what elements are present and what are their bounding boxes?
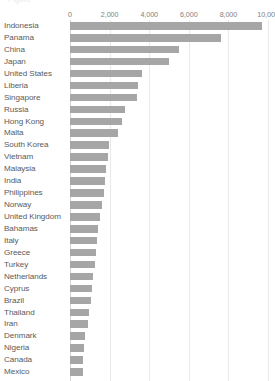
bar (70, 356, 83, 364)
bar (70, 297, 91, 305)
category-label: United States (4, 68, 67, 80)
bar (70, 201, 102, 209)
bar (70, 344, 84, 352)
bar (70, 165, 106, 173)
category-label: Malta (4, 127, 67, 139)
bar (70, 177, 105, 185)
bar-row: Vietnam (0, 151, 275, 163)
category-label: Panama (4, 32, 67, 44)
bar (70, 332, 85, 340)
bar-row: Malaysia (0, 163, 275, 175)
bar (70, 129, 118, 137)
category-label: Greece (4, 247, 67, 259)
bar-row: India (0, 175, 275, 187)
category-label: Iran (4, 318, 67, 330)
category-label: United Kingdom (4, 211, 67, 223)
x-axis-tick-label: 0 (68, 9, 72, 20)
bar-row: Panama (0, 32, 275, 44)
category-label: Cyprus (4, 283, 67, 295)
bar (70, 34, 221, 42)
bar-row: Brazil (0, 295, 275, 307)
bar (70, 82, 138, 90)
category-label: Russia (4, 104, 67, 116)
bar-row: Canada (0, 354, 275, 366)
bar-row: Bahamas (0, 223, 275, 235)
category-label: Denmark (4, 330, 67, 342)
category-label: Nigeria (4, 342, 67, 354)
x-axis-tick-label: 10,000 (257, 9, 275, 20)
x-axis-tick-label: 2,000 (101, 9, 119, 20)
category-label: India (4, 175, 67, 187)
bar-row: Italy (0, 235, 275, 247)
bar-row: Singapore (0, 92, 275, 104)
category-label: Vietnam (4, 151, 67, 163)
bar-row: Thailand (0, 307, 275, 319)
bar-row: Russia (0, 104, 275, 116)
bar-row: United States (0, 68, 275, 80)
bar-row: China (0, 44, 275, 56)
category-label: Netherlands (4, 271, 67, 283)
bar (70, 249, 96, 257)
bar (70, 106, 125, 114)
category-label: Liberia (4, 80, 67, 92)
category-label: Norway (4, 199, 67, 211)
bar-row: Nigeria (0, 342, 275, 354)
bar-row: Malta (0, 127, 275, 139)
bar-row: Hong Kong (0, 116, 275, 128)
category-label: China (4, 44, 67, 56)
bar (70, 309, 89, 317)
bar-row: Mexico (0, 366, 275, 378)
chart-title-fragment: Figure (8, 0, 31, 4)
category-label: Italy (4, 235, 67, 247)
bar (70, 118, 122, 126)
category-label: Philippines (4, 187, 67, 199)
bar-rows: IndonesiaPanamaChinaJapanUnited StatesLi… (0, 20, 275, 378)
bar-chart: Figure 02,0004,0006,0008,00010,000 Indon… (0, 0, 275, 381)
bar-row: Denmark (0, 330, 275, 342)
bar-row: Greece (0, 247, 275, 259)
bar (70, 225, 98, 233)
plot-area: IndonesiaPanamaChinaJapanUnited StatesLi… (0, 20, 275, 381)
bar-row: Indonesia (0, 20, 275, 32)
bar (70, 261, 95, 269)
bar-row: Iran (0, 318, 275, 330)
bar (70, 141, 109, 149)
category-label: Hong Kong (4, 116, 67, 128)
x-axis-tick-label: 8,000 (220, 9, 238, 20)
bar (70, 285, 92, 293)
category-label: Turkey (4, 259, 67, 271)
category-label: Japan (4, 56, 67, 68)
category-label: Mexico (4, 366, 67, 378)
bar (70, 237, 97, 245)
bar (70, 320, 88, 328)
bar (70, 273, 93, 281)
bar-row: South Korea (0, 139, 275, 151)
x-axis-tick-label: 4,000 (140, 9, 158, 20)
category-label: Canada (4, 354, 67, 366)
bar-row: Liberia (0, 80, 275, 92)
bar (70, 153, 108, 161)
category-label: Thailand (4, 307, 67, 319)
x-axis: 02,0004,0006,0008,00010,000 (0, 9, 275, 20)
category-label: Brazil (4, 295, 67, 307)
bar-row: Japan (0, 56, 275, 68)
bar (70, 94, 137, 102)
category-label: South Korea (4, 139, 67, 151)
bar (70, 368, 83, 376)
category-label: Indonesia (4, 20, 67, 32)
bar-row: United Kingdom (0, 211, 275, 223)
bar-row: Norway (0, 199, 275, 211)
category-label: Malaysia (4, 163, 67, 175)
bar-row: Cyprus (0, 283, 275, 295)
bar (70, 213, 100, 221)
bar (70, 58, 169, 66)
x-axis-tick-label: 6,000 (180, 9, 198, 20)
category-label: Singapore (4, 92, 67, 104)
bar (70, 46, 179, 54)
bar (70, 70, 142, 78)
bar (70, 22, 262, 30)
bar (70, 189, 104, 197)
bar-row: Turkey (0, 259, 275, 271)
bar-row: Netherlands (0, 271, 275, 283)
bar-row: Philippines (0, 187, 275, 199)
